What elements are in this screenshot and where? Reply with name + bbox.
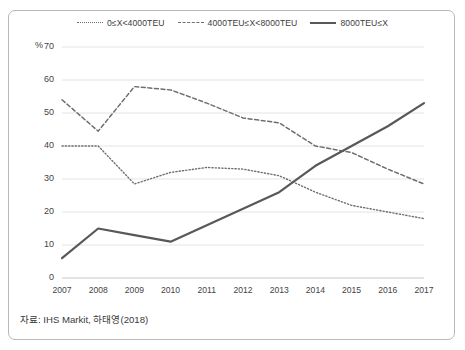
x-axis-tick-label: 2008 <box>81 285 115 295</box>
x-axis-tick-label: 2014 <box>298 285 332 295</box>
y-axis-tick-label: 70 <box>32 41 54 51</box>
legend-item-large-vessels: 8000TEU≤X <box>310 18 388 28</box>
x-axis-tick-label: 2017 <box>407 285 441 295</box>
y-axis-tick-label: 10 <box>32 239 54 249</box>
x-axis-tick-label: 2015 <box>335 285 369 295</box>
legend-label-medium-vessels: 4000TEU≤X<8000TEU <box>208 18 298 28</box>
x-axis-tick-label: 2012 <box>226 285 260 295</box>
legend-item-medium-vessels: 4000TEU≤X<8000TEU <box>178 18 298 28</box>
legend-label-small-vessels: 0≤X<4000TEU <box>107 18 165 28</box>
y-axis-tick-label: 30 <box>32 173 54 183</box>
chart-figure: 0≤X<4000TEU 4000TEU≤X<8000TEU 8000TEU≤X … <box>0 0 465 350</box>
legend-item-small-vessels: 0≤X<4000TEU <box>77 18 165 28</box>
y-axis-tick-label: 50 <box>32 107 54 117</box>
x-axis-tick-label: 2010 <box>154 285 188 295</box>
y-axis-tick-label: 0 <box>32 272 54 282</box>
x-axis-tick-label: 2009 <box>117 285 151 295</box>
y-axis-tick-label: 60 <box>32 74 54 84</box>
y-axis-tick-label: 20 <box>32 206 54 216</box>
chart-legend: 0≤X<4000TEU 4000TEU≤X<8000TEU 8000TEU≤X <box>0 18 465 28</box>
source-note: 자료: IHS Markit, 하태영(2018) <box>20 312 148 326</box>
y-axis-tick-label: 40 <box>32 140 54 150</box>
x-axis-tick-label: 2011 <box>190 285 224 295</box>
x-axis-tick-label: 2007 <box>45 285 79 295</box>
x-axis-tick-label: 2016 <box>371 285 405 295</box>
x-axis-tick-label: 2013 <box>262 285 296 295</box>
legend-label-large-vessels: 8000TEU≤X <box>340 18 388 28</box>
